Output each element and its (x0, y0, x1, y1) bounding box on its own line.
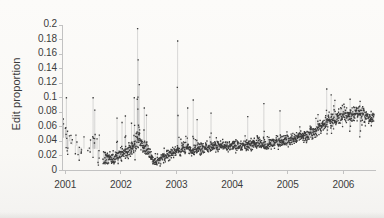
y-tick-label: 0 (19, 164, 57, 175)
y-tick-label: 0.14 (19, 62, 57, 73)
y-tick-label: 0.12 (19, 76, 57, 87)
plot-area: Edit proportion 00.020.040.060.080.10.12… (0, 0, 384, 218)
data-marker-path (63, 28, 375, 167)
chart-screenshot: Edit proportion 00.020.040.060.080.10.12… (0, 0, 384, 218)
x-tick-label: 2004 (210, 179, 254, 190)
x-tick-label: 2006 (321, 179, 365, 190)
x-tick-label: 2003 (155, 179, 199, 190)
y-axis-ticks (59, 25, 63, 171)
x-axis-ticks (65, 171, 343, 175)
y-tick-label: 0.08 (19, 105, 57, 116)
y-tick-label: 0.16 (19, 47, 57, 58)
data-points (63, 28, 375, 167)
x-tick-label: 2001 (43, 179, 87, 190)
y-tick-label: 0.04 (19, 134, 57, 145)
y-tick-label: 0.1 (19, 91, 57, 102)
x-tick-label: 2005 (266, 179, 310, 190)
y-tick-label: 0.02 (19, 149, 57, 160)
x-tick-label: 2002 (99, 179, 143, 190)
y-tick-label: 0.06 (19, 120, 57, 131)
y-tick-label: 0.18 (19, 33, 57, 44)
y-tick-label: 0.2 (19, 18, 57, 29)
